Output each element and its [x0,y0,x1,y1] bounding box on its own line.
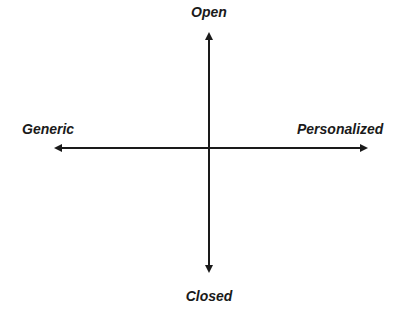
axis-label-generic: Generic [22,121,74,137]
axis-label-closed: Closed [186,288,233,304]
axes-graphic [0,0,412,320]
quadrant-diagram: Open Closed Generic Personalized [0,0,412,320]
axis-label-personalized: Personalized [297,121,383,137]
axis-label-open: Open [191,4,227,20]
